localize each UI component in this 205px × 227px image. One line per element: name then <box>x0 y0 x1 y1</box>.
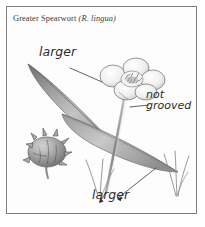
grass-blades <box>164 151 189 196</box>
illustration-plate: Greater Spearwort (R. lingua) <box>0 0 205 227</box>
annotation-not-grooved-line2: grooved <box>146 100 191 111</box>
bud-cluster <box>23 128 72 178</box>
annotation-larger-petals: larger <box>39 46 76 59</box>
leader-larger-top <box>70 68 102 82</box>
annotation-not-grooved: not grooved <box>146 89 191 111</box>
annotation-larger-leaves: larger <box>92 189 129 202</box>
